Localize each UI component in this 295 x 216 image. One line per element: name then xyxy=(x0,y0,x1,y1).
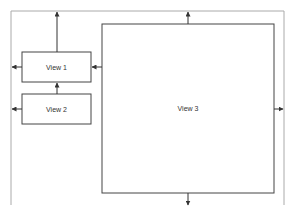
view1-label: View 1 xyxy=(22,52,91,82)
view3-label: View 3 xyxy=(102,24,274,193)
view2-label: View 2 xyxy=(22,94,91,124)
